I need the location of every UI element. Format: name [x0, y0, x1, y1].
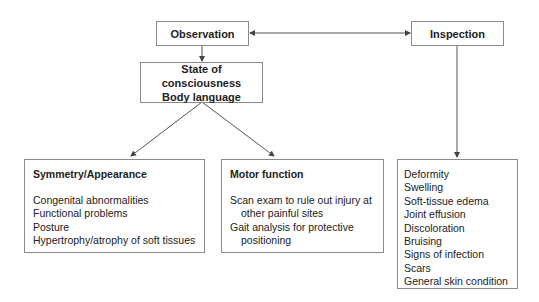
inspection-item: Bruising [404, 235, 511, 248]
symmetry-item: Posture [33, 221, 196, 235]
inspection-item: Swelling [404, 181, 511, 194]
inspection-item: Signs of infection [404, 248, 511, 261]
observation-label: Observation [170, 28, 234, 40]
edge-state-motor [202, 102, 274, 156]
inspection-label: Inspection [430, 28, 485, 40]
observation-node: Observation [156, 21, 249, 46]
inspection-list-node: Deformity Swelling Soft-tissue edema Joi… [397, 159, 518, 289]
motor-item: Scan exam to rule out injury at other pa… [230, 194, 375, 221]
state-line-2: Body language [162, 90, 241, 104]
state-line-1: State of consciousness [141, 62, 262, 90]
inspection-item: Scars [404, 262, 511, 275]
inspection-item: General skin condition [404, 275, 511, 288]
inspection-item: Discoloration [404, 222, 511, 235]
state-node: State of consciousness Body language [140, 62, 263, 103]
symmetry-item: Congenital abnormalities [33, 194, 196, 208]
inspection-item: Deformity [404, 168, 511, 181]
motor-item: Gait analysis for protective positioning [230, 221, 375, 248]
motor-node: Motor function Scan exam to rule out inj… [221, 159, 384, 253]
symmetry-heading: Symmetry/Appearance [33, 168, 196, 182]
motor-heading: Motor function [230, 168, 375, 182]
symmetry-node: Symmetry/Appearance Congenital abnormali… [24, 159, 205, 253]
inspection-node: Inspection [411, 21, 504, 46]
inspection-subitem: Joint effusion [404, 208, 511, 221]
symmetry-item: Hypertrophy/atrophy of soft tissues [33, 234, 196, 248]
inspection-subitem: Soft-tissue edema [404, 195, 511, 208]
edge-state-symmetry [131, 102, 202, 156]
symmetry-item: Functional problems [33, 207, 196, 221]
